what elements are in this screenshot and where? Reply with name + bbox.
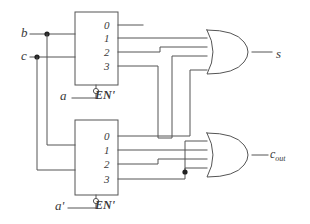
- decoder-top-output-3-label: 3: [104, 60, 110, 72]
- decoder-top-output-2-label: 2: [104, 46, 110, 58]
- decoder-bottom-output-3-label: 3: [104, 173, 110, 185]
- schematic-svg: [0, 0, 310, 224]
- input-label-b: b: [21, 25, 28, 41]
- decoder-bottom-enable-label: EN': [95, 198, 115, 213]
- circuit-diagram: b c a a' EN' EN' 0 1 2 3 0 1 2 3 s cout: [0, 0, 310, 224]
- wire-bot-out2-to-or-carry: [118, 159, 207, 164]
- decoder-bottom-output-1-label: 1: [104, 144, 110, 156]
- input-label-a: a: [60, 88, 67, 104]
- or-gate-carry-body: [207, 133, 248, 177]
- wire-a-to-en-top: [72, 94, 96, 99]
- decoder-top-output-0-label: 0: [104, 19, 110, 31]
- wire-bot-out3-to-or-carry: [118, 168, 207, 179]
- input-label-a-prime: a': [55, 198, 64, 214]
- or-gate-sum-body: [207, 30, 248, 74]
- wire-c-to-decoder-bottom: [37, 57, 75, 170]
- wire-bot-out0-to-or-sum: [118, 70, 207, 136]
- decoder-top-enable-label: EN': [95, 88, 115, 103]
- decoder-top-output-1-label: 1: [104, 32, 110, 44]
- wire-aprime-to-en-bottom: [68, 204, 96, 209]
- output-label-s: s: [276, 46, 281, 62]
- wire-top-out2-to-or-sum: [118, 47, 207, 52]
- wire-top-out3-route: [118, 56, 207, 138]
- decoder-top-body: [75, 12, 118, 85]
- decoder-bottom-body: [75, 120, 118, 195]
- decoder-bottom-output-0-label: 0: [104, 130, 110, 142]
- wire-carry-branch-to-or-carry: [185, 141, 207, 172]
- junction-carry-dot: [182, 169, 187, 174]
- input-label-c: c: [21, 48, 27, 64]
- output-label-cout: cout: [270, 147, 286, 163]
- output-label-cout-sub: out: [275, 154, 285, 163]
- decoder-bottom-output-2-label: 2: [104, 158, 110, 170]
